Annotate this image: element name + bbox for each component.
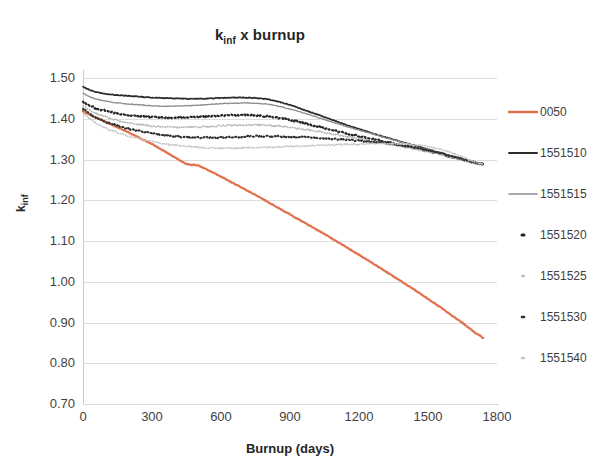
legend-label: 1551525 [538, 269, 587, 283]
y-tick-label: 0.90 [31, 315, 75, 330]
y-axis-title: kinf [14, 194, 30, 212]
legend-label: 1551510 [538, 146, 587, 160]
y-tick-label: 1.00 [31, 274, 75, 289]
legend-label: 0050 [538, 105, 567, 119]
series-line-1551510 [83, 87, 483, 165]
legend-item-1551540[interactable]: 1551540 [508, 350, 602, 366]
legend-label: 1551515 [538, 187, 587, 201]
legend-item-1551525[interactable]: 1551525 [508, 268, 602, 284]
series-line-1551540 [83, 113, 483, 165]
legend-label: 1551540 [538, 351, 587, 365]
legend-swatch-icon [508, 187, 538, 201]
legend-label: 1551530 [538, 310, 587, 324]
x-tick-label: 0 [53, 409, 113, 424]
y-tick-label: 1.40 [31, 111, 75, 126]
y-tick-label: 1.20 [31, 192, 75, 207]
legend-swatch-icon [508, 351, 538, 365]
series-line-1551515 [83, 93, 483, 164]
series-line-1551520 [83, 102, 483, 165]
chart-title-rest: x burnup [236, 26, 305, 43]
plot-area [83, 78, 497, 404]
legend-swatch-icon [508, 146, 538, 160]
legend-swatch-icon [508, 105, 538, 119]
series-line-1551525 [83, 106, 483, 165]
chart-root: kinf x burnup 0.700.800.901.001.101.201.… [0, 0, 604, 472]
y-tick-label: 1.50 [31, 70, 75, 85]
x-axis-tick-labels: 0300600900120015001800 [83, 409, 497, 431]
legend-swatch-icon [508, 228, 538, 242]
x-tick-label: 900 [260, 409, 320, 424]
legend-swatch-icon [508, 269, 538, 283]
legend-item-1551515[interactable]: 1551515 [508, 186, 602, 202]
legend-label: 1551520 [538, 228, 587, 242]
gridline [83, 404, 497, 405]
x-tick-label: 1500 [398, 409, 458, 424]
x-tick-label: 1800 [467, 409, 527, 424]
legend-item-1551510[interactable]: 1551510 [508, 145, 602, 161]
y-tick-label: 0.80 [31, 355, 75, 370]
legend-item-1551530[interactable]: 1551530 [508, 309, 602, 325]
y-tick-label: 1.30 [31, 152, 75, 167]
chart-title-subscript: inf [223, 35, 236, 46]
x-tick-label: 1200 [329, 409, 389, 424]
y-axis-title-subscript: inf [20, 194, 30, 205]
legend-item-1551520[interactable]: 1551520 [508, 227, 602, 243]
y-axis-title-main: k [14, 205, 28, 212]
legend-item-0050[interactable]: 0050 [508, 104, 602, 120]
x-tick-label: 600 [191, 409, 251, 424]
legend-swatch-icon [508, 310, 538, 324]
x-tick-label: 300 [122, 409, 182, 424]
y-tick-label: 1.10 [31, 233, 75, 248]
y-axis-tick-labels: 0.700.800.901.001.101.201.301.401.50 [25, 78, 75, 404]
x-axis-title: Burnup (days) [83, 441, 497, 456]
chart-title: kinf x burnup [0, 26, 520, 46]
series-layer [83, 78, 497, 404]
